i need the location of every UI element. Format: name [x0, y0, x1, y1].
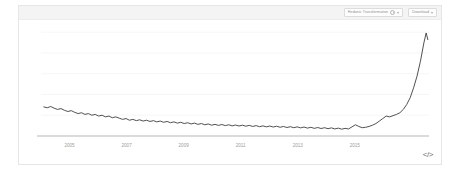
chevron-down-icon [431, 12, 433, 14]
download-dropdown[interactable]: Download [408, 8, 437, 17]
x-tick-label: 2007 [121, 143, 132, 148]
transform-dropdown-label: Hedonic Transformation [348, 8, 388, 17]
line-chart-svg: 200520072009201120132015 [19, 20, 443, 166]
chart-line-index [44, 33, 428, 129]
chart-header-toolbar: Hedonic Transformation Download [19, 6, 441, 20]
transform-dropdown[interactable]: Hedonic Transformation [344, 8, 403, 17]
x-tick-label: 2011 [236, 143, 246, 148]
embed-code-icon[interactable]: </> [423, 150, 433, 159]
chart-x-tick-labels: 200520072009201120132015 [64, 143, 360, 148]
download-dropdown-label: Download [412, 8, 429, 17]
chart-widget: Hedonic Transformation Download 20052007… [0, 0, 452, 182]
x-tick-label: 2013 [293, 143, 304, 148]
chevron-down-icon [397, 12, 399, 14]
info-circle-icon[interactable] [390, 10, 395, 15]
chart-plot-area: 200520072009201120132015 [19, 20, 443, 166]
chart-series-layer [44, 33, 428, 129]
x-tick-label: 2015 [350, 143, 361, 148]
x-tick-label: 2005 [64, 143, 75, 148]
chart-card: Hedonic Transformation Download 20052007… [18, 5, 442, 165]
x-tick-label: 2009 [179, 143, 190, 148]
chart-gridlines [41, 32, 429, 115]
